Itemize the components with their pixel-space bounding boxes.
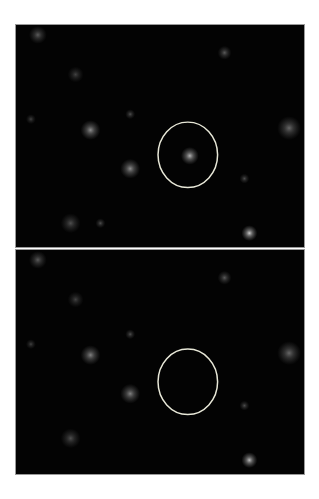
fluorescent-cell: [68, 292, 84, 308]
fluorescent-cell: [120, 384, 140, 404]
fluorescent-cell: [239, 401, 249, 411]
fluorescent-cell: [68, 67, 84, 83]
micrograph-image-bottom: [16, 250, 304, 474]
fluorescent-cell: [29, 26, 47, 44]
fluorescent-cell: [218, 271, 232, 285]
fluorescent-cell: [239, 174, 249, 184]
fluorescent-cell: [125, 329, 135, 339]
fluorescent-cell: [241, 452, 257, 468]
fluorescent-cell: [29, 251, 47, 269]
fluorescent-cell: [81, 345, 101, 365]
micrograph-image-top: [16, 25, 304, 247]
fluorescent-cell: [218, 46, 232, 60]
fluorescent-cell: [26, 339, 36, 349]
fluorescent-cell: [277, 116, 301, 140]
fluorescent-cell: [120, 159, 140, 179]
fluorescent-cell: [81, 120, 101, 140]
fluorescent-cell: [26, 114, 36, 124]
fluorescent-cell: [181, 147, 199, 165]
micrograph-panel-top: [15, 24, 305, 248]
fluorescent-cell: [61, 213, 81, 233]
fluorescent-cell: [241, 225, 257, 241]
fluorescent-cell: [125, 109, 135, 119]
micrograph-panel-bottom: [15, 249, 305, 475]
highlight-circle: [158, 349, 218, 414]
fluorescent-cell: [277, 341, 301, 365]
fluorescent-cell: [95, 218, 105, 228]
fluorescent-cell: [61, 428, 81, 448]
